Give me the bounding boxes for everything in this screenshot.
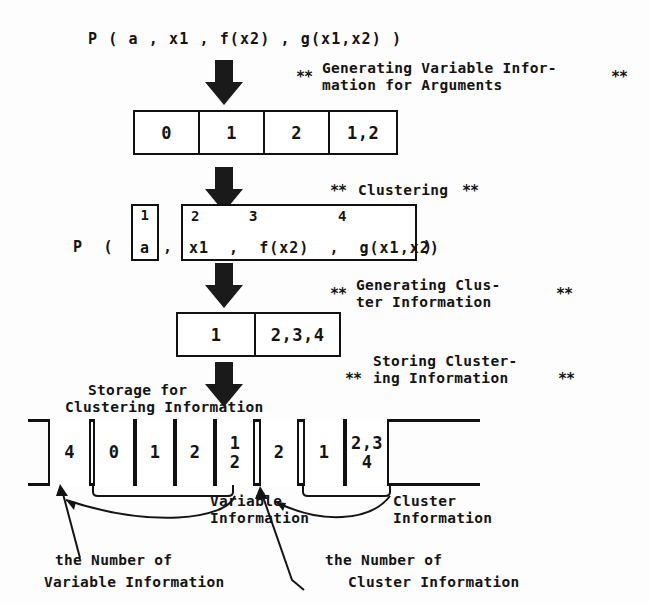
storage-cell-var-1: 1 <box>135 419 175 486</box>
step-2-stars-left: ** <box>330 182 346 200</box>
label-number-of-variable-information-line1: the Number of <box>55 552 172 569</box>
label-variable-information-line2: Information <box>210 510 309 527</box>
diagram-canvas: P ( a , x1 , f(x2) , g(x1,x2) ) ** Gener… <box>0 0 649 605</box>
cluster-group-box-a: 1 a <box>131 204 159 261</box>
top-predicate-expression: P ( a , x1 , f(x2) , g(x1,x2) ) <box>88 30 402 48</box>
step-3-label-line2: ter Information <box>356 294 491 311</box>
step-2-stars-right: ** <box>462 182 478 200</box>
storage-title-line1: Storage for <box>88 382 187 399</box>
step-1-label-line1: Generating Variable Infor- <box>322 60 557 77</box>
label-number-of-cluster-information-line2: Cluster Information <box>348 574 520 591</box>
clustered-predicate-separator: , <box>163 238 173 256</box>
step-4-stars-right: ** <box>558 370 574 388</box>
storage-cell-var-2: 2 <box>175 419 215 486</box>
step-4-label-line1: Storing Cluster- <box>373 353 517 370</box>
cluster-group-box-rest: 2 3 4 x1 , f(x2) , g(x1,x2) <box>181 204 417 261</box>
variable-information-table: 0 1 2 1,2 <box>133 110 398 155</box>
clustered-predicate-suffix: ) <box>423 238 433 256</box>
label-number-of-cluster-information-line1: the Number of <box>325 552 442 569</box>
step-3-label-line1: Generating Clus- <box>356 277 500 294</box>
table-cell: 2,3,4 <box>256 314 339 355</box>
storage-cell-var-12: 1 2 <box>215 419 255 486</box>
storage-cell-count-var: 4 <box>48 419 91 486</box>
storage-cell-count-cluster: 2 <box>259 419 299 486</box>
label-cluster-information-line2: Information <box>393 510 492 527</box>
cluster-information-table: 1 2,3,4 <box>176 312 341 357</box>
cluster-index-3: 3 <box>249 208 258 224</box>
storage-title-line2: Clustering Information <box>65 399 264 416</box>
step-4-label-line2: ing Information <box>373 370 508 387</box>
storage-cell-var-0: 0 <box>93 419 135 486</box>
step-2-label-line1: Clustering <box>358 182 448 199</box>
table-cell: 1 <box>178 314 256 355</box>
cluster-body-rest: x1 , f(x2) , g(x1,x2) <box>189 239 440 257</box>
step-3-stars-right: ** <box>556 285 572 303</box>
table-cell: 2 <box>265 112 330 153</box>
cluster-index-4: 4 <box>338 208 347 224</box>
storage-cell-cluster-1: 1 <box>303 419 345 486</box>
table-cell: 0 <box>135 112 200 153</box>
label-variable-information-line1: Variable <box>210 493 282 510</box>
step-3-stars-left: ** <box>330 285 346 303</box>
clustered-predicate-prefix: P ( <box>73 238 114 256</box>
table-cell: 1,2 <box>330 112 396 153</box>
cluster-body-a: a <box>133 239 157 257</box>
step-1-stars-right: ** <box>611 68 627 86</box>
label-number-of-variable-information-line2: Variable Information <box>44 574 225 591</box>
cluster-index-2: 2 <box>191 208 200 224</box>
label-cluster-information-line1: Cluster <box>393 493 456 510</box>
cluster-index-1: 1 <box>133 207 157 223</box>
step-1-stars-left: ** <box>296 68 312 86</box>
step-4-stars-left: ** <box>345 370 361 388</box>
table-cell: 1 <box>200 112 265 153</box>
flow-arrow-1 <box>202 60 246 106</box>
flow-arrow-3 <box>202 263 246 309</box>
storage-cell-cluster-234: 2,3 4 <box>345 419 389 486</box>
step-1-label-line2: mation for Arguments <box>322 77 503 94</box>
